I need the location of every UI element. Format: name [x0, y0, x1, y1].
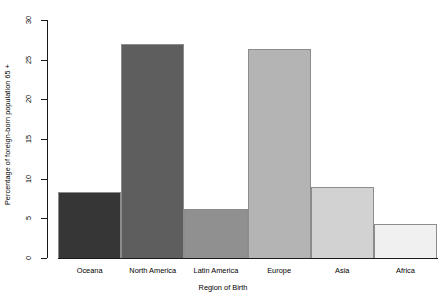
x-axis-title: Region of Birth [0, 283, 446, 292]
bar-series [58, 20, 437, 258]
x-axis-label-oceana: Oceana [58, 264, 121, 278]
y-axis-tick-label: 0 [20, 253, 38, 263]
y-axis-tick-label: 15 [20, 134, 38, 144]
y-axis-tick [41, 218, 47, 219]
y-axis-tick [41, 258, 47, 259]
y-axis-line [47, 20, 48, 258]
y-axis-tick-label: 30 [20, 15, 38, 25]
y-axis-tick-label: 5 [20, 213, 38, 223]
y-axis-tick-label: 25 [20, 55, 38, 65]
bar-cell [184, 20, 247, 258]
y-axis-tick-label-text: 0 [24, 256, 34, 260]
y-axis-tick [41, 20, 47, 21]
bar-africa [374, 224, 437, 258]
x-axis-line [58, 258, 438, 259]
y-axis-title-text: Percentage of foreign-born population 65… [4, 63, 13, 204]
y-axis-tick-label-text: 5 [24, 216, 34, 220]
y-axis-tick [41, 60, 47, 61]
x-axis-tick-labels: OceanaNorth AmericaLatin AmericaEuropeAs… [58, 264, 437, 278]
y-axis-tick [41, 179, 47, 180]
y-axis-tick-label-text: 20 [24, 95, 34, 103]
x-axis-label-europe: Europe [248, 264, 311, 278]
bar-north-america [121, 44, 184, 258]
bar-cell [121, 20, 184, 258]
x-axis-label-asia: Asia [311, 264, 374, 278]
bar-chart: Percentage of foreign-born population 65… [0, 0, 446, 306]
y-axis-tick-label-text: 10 [24, 175, 34, 183]
y-axis-tick-label: 10 [20, 174, 38, 184]
bar-cell [58, 20, 121, 258]
y-axis-tick-label-text: 15 [24, 135, 34, 143]
bar-cell [311, 20, 374, 258]
bar-cell [248, 20, 311, 258]
plot-area [58, 20, 437, 258]
x-axis-label-north-america: North America [121, 264, 184, 278]
y-axis-tick [41, 99, 47, 100]
bar-asia [311, 187, 374, 258]
y-axis-tick-label: 20 [20, 94, 38, 104]
y-axis-tick-label-text: 25 [24, 56, 34, 64]
y-axis-tick-label-text: 30 [24, 16, 34, 24]
bar-cell [374, 20, 437, 258]
y-axis-title: Percentage of foreign-born population 65… [0, 0, 16, 268]
bar-europe [248, 49, 311, 258]
bar-oceana [58, 192, 121, 258]
bar-latin-america [184, 209, 247, 258]
y-axis-tick [41, 139, 47, 140]
x-axis-label-latin-america: Latin America [184, 264, 247, 278]
x-axis-label-africa: Africa [374, 264, 437, 278]
